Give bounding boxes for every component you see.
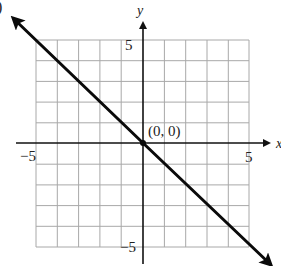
origin-label: (0, 0) <box>148 123 181 140</box>
y-axis-label: y <box>135 3 144 18</box>
x-axis-label: x <box>275 136 281 151</box>
origin-point <box>140 140 146 146</box>
y-tick-label-neg5: −5 <box>120 239 136 255</box>
problem-label-fragment: ) <box>0 0 2 16</box>
x-tick-label-5: 5 <box>245 149 253 165</box>
y-tick-label-5: 5 <box>125 37 133 53</box>
coordinate-plane: x y 5 −5 5 −5 (0, 0) ) <box>0 0 281 266</box>
x-tick-label-neg5: −5 <box>20 148 36 164</box>
